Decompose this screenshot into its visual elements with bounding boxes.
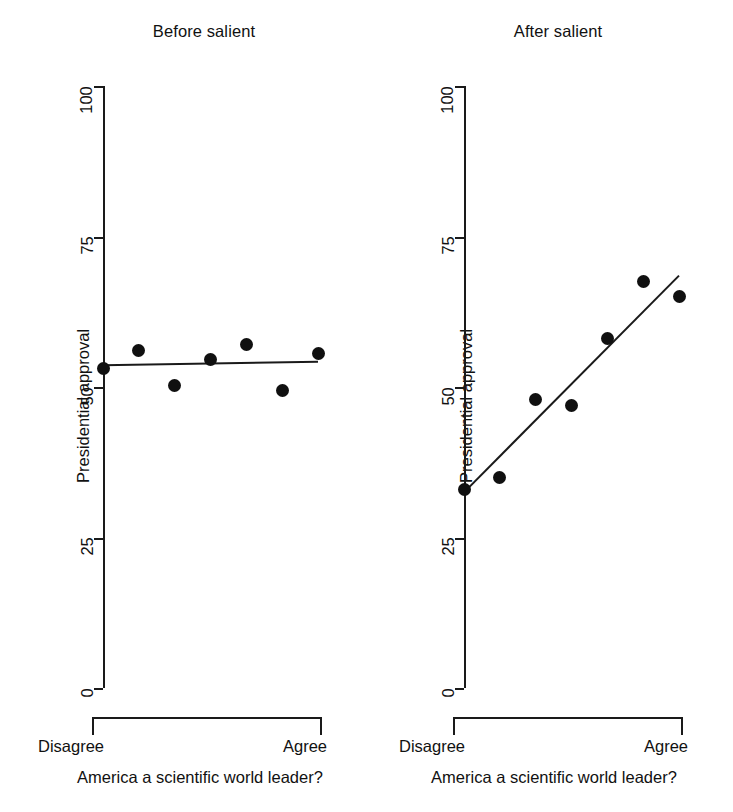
data-point (673, 290, 686, 303)
y-tick-label: 0 (79, 688, 96, 697)
y-tick-mark (455, 86, 464, 88)
data-point (637, 275, 650, 288)
data-point (565, 399, 578, 412)
y-axis-title: Presidential approval (74, 329, 93, 483)
x-axis-bracket (92, 717, 322, 735)
plot-area: 100 75 50 25 0 (464, 86, 679, 688)
regression-line (464, 86, 679, 688)
x-axis-title: America a scientific world leader? (361, 768, 733, 787)
figure-panels: Before salient Presidential approval 100… (0, 0, 733, 812)
x-axis-low-label: Disagree (399, 737, 465, 756)
data-point (276, 384, 289, 397)
y-tick-label: 50 (440, 387, 457, 405)
x-axis-title: America a scientific world leader? (0, 768, 372, 787)
y-tick-label: 100 (79, 86, 96, 114)
panel-title: Before salient (0, 22, 372, 41)
panel-title: After salient (361, 22, 733, 41)
data-point (97, 362, 110, 375)
y-tick-label: 25 (79, 538, 96, 556)
data-point (458, 483, 471, 496)
y-tick-label: 75 (440, 237, 457, 255)
y-tick-mark (94, 86, 103, 88)
panel-after-salient: After salient Presidential approval 100 … (361, 0, 733, 812)
x-axis-bracket (453, 717, 683, 735)
y-tick-label: 50 (79, 387, 96, 405)
panel-before-salient: Before salient Presidential approval 100… (0, 0, 372, 812)
regression-line-segment (464, 276, 679, 493)
y-tick-label: 75 (79, 237, 96, 255)
y-tick-label: 100 (440, 86, 457, 114)
x-axis-high-label: Agree (644, 737, 688, 756)
data-point (312, 347, 325, 360)
data-point (168, 379, 181, 392)
data-point (529, 393, 542, 406)
plot-area: 100 75 50 25 0 (103, 86, 318, 688)
x-axis-high-label: Agree (283, 737, 327, 756)
y-tick-label: 25 (440, 538, 457, 556)
x-axis-low-label: Disagree (38, 737, 104, 756)
y-tick-label: 0 (440, 688, 457, 697)
